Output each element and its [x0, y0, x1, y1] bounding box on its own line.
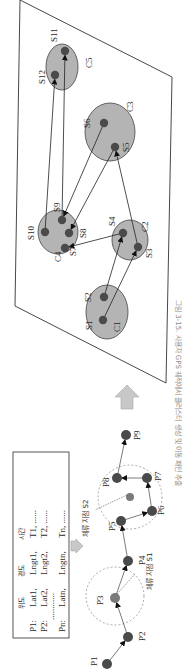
gps-point-p9 — [121, 430, 131, 440]
table-cell: T2, ...... — [39, 510, 49, 538]
gps-point-p4 — [123, 556, 133, 566]
stay-point-s2 — [100, 293, 108, 301]
trajectory-segment — [122, 526, 128, 561]
gps-point-p3 — [110, 593, 120, 603]
stay-label: S6 — [82, 118, 92, 128]
stay-point-s9 — [58, 216, 66, 224]
trajectory-segment — [117, 603, 128, 637]
gps-point-p5 — [116, 516, 126, 526]
stay-point-label-s2: 체류 지점 S2 — [81, 500, 90, 537]
gps-point-label: P3 — [95, 595, 105, 605]
stay-point-s6 — [100, 119, 108, 127]
cluster-label: C2 — [140, 221, 150, 232]
table-header: 시간 — [17, 527, 26, 540]
table-cell: P1: — [28, 620, 38, 632]
stay-label: S5 — [121, 142, 131, 152]
table-header: 경도 — [17, 564, 26, 577]
figure-caption: 그림 3-15. 사용자 GPS 궤적에서 클러스터 생성 및 이동 패턴 추출 — [174, 300, 183, 487]
stay-point-s10 — [41, 228, 49, 236]
stay-label: S10 — [26, 225, 36, 240]
gps-table-box — [13, 452, 69, 638]
gps-point-label: P8 — [101, 477, 111, 487]
stay-label: S7 — [68, 246, 78, 256]
gps-point-label: P9 — [132, 430, 142, 440]
stay-label: S1 — [84, 320, 94, 330]
table-cell: Pn: — [57, 620, 67, 632]
stay-label: S9 — [52, 202, 62, 212]
stay-point-s11 — [61, 47, 69, 55]
stay-label: S4 — [107, 216, 117, 226]
table-cell: Lngtn, — [57, 551, 67, 575]
gps-point-p8 — [112, 473, 122, 483]
stay-point-s3 — [134, 243, 142, 251]
stay-point-s12 — [51, 71, 59, 79]
stay-point-s4 — [119, 229, 127, 237]
cluster-label: C1 — [112, 321, 122, 332]
stay-centroid-s2 — [126, 493, 134, 501]
stay-point-s1 — [99, 316, 107, 324]
gps-point-label: P7 — [153, 471, 163, 481]
table-header: 위도 — [18, 596, 26, 609]
table-cell: Latn, — [57, 588, 67, 607]
gps-point-label: P5 — [107, 521, 117, 531]
table-cell: P2: — [39, 620, 49, 632]
table-cell: Tn, ...... — [57, 510, 67, 538]
gps-point-p7 — [142, 473, 152, 483]
table-cell: Lngt2, — [39, 551, 49, 575]
leader-line — [95, 495, 127, 510]
stay-label: S8 — [78, 228, 88, 238]
cluster-label: C3 — [125, 101, 135, 112]
table-cell: T1, ...... — [28, 510, 38, 538]
trajectory-segment — [115, 566, 126, 598]
stay-label: S3 — [144, 248, 154, 258]
stay-label: S12 — [37, 70, 47, 84]
gps-point-label: P6 — [156, 505, 166, 515]
stay-point-s8 — [65, 229, 73, 237]
stay-label: S11 — [49, 28, 59, 42]
table-cell: ............ — [46, 593, 56, 620]
table-cell: Lat1, — [28, 588, 38, 607]
gps-point-label: P2 — [137, 631, 147, 641]
big-arrow-icon — [115, 385, 139, 409]
gps-point-p1 — [102, 659, 112, 669]
table-cell: Lngt1, — [28, 551, 38, 575]
trajectory-segment — [117, 440, 125, 478]
gps-point-p2 — [123, 632, 133, 642]
stay-point-label-s1: 체류 지점 S1 — [145, 553, 154, 590]
cluster-label: C5 — [84, 57, 94, 68]
cluster-label: C4 — [53, 251, 63, 262]
stay-point-s5 — [111, 143, 119, 151]
small-arrow-icon — [71, 539, 83, 553]
stay-label: S2 — [83, 292, 93, 302]
gps-point-label: P1 — [89, 656, 99, 666]
figure-canvas: C1S1S2C2S3S4C3S5S6C4S7S8S9S10C5S11S12 위도… — [0, 0, 188, 670]
